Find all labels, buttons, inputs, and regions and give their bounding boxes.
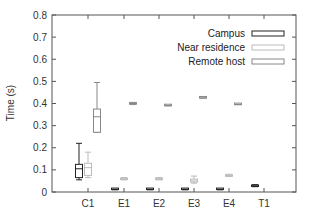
box-remote-host-C1	[94, 82, 101, 132]
y-axis-ticks: 00.10.20.30.40.50.60.70.8	[33, 10, 296, 198]
y-tick-label: 0.7	[33, 32, 47, 43]
box-campus-E3	[182, 188, 189, 190]
y-tick-label: 0.1	[33, 164, 47, 175]
x-tick-label: E2	[153, 198, 166, 209]
legend-label: Campus	[208, 28, 245, 39]
y-tick-label: 0.4	[33, 98, 47, 109]
box-campus-C1	[76, 143, 83, 180]
x-tick-label: E1	[118, 198, 131, 209]
box-near-residence-E3	[191, 176, 198, 183]
y-tick-label: 0	[41, 187, 47, 198]
box-campus-E1	[112, 188, 119, 190]
x-tick-label: E3	[188, 198, 201, 209]
box-remote-host-E3	[200, 96, 207, 98]
legend: CampusNear residenceRemote host	[177, 28, 284, 67]
box-near-residence-E2	[156, 178, 163, 180]
x-tick-label: T1	[258, 198, 270, 209]
y-tick-label: 0.3	[33, 120, 47, 131]
x-tick-label: E4	[223, 198, 236, 209]
y-axis-title: Time (s)	[5, 85, 16, 121]
box-near-residence-C1	[85, 152, 92, 177]
box-campus-E2	[147, 188, 154, 190]
legend-swatch	[252, 45, 284, 50]
box-plot-chart: 00.10.20.30.40.50.60.70.8 C1E1E2E3E4T1 T…	[0, 0, 311, 217]
box-remote-host-E2	[165, 104, 172, 106]
box-campus-T1	[252, 185, 259, 187]
box-remote-host-E1	[130, 102, 137, 104]
box-campus-E4	[217, 188, 224, 190]
y-tick-label: 0.6	[33, 54, 47, 65]
legend-label: Near residence	[177, 42, 245, 53]
box-remote-host-E4	[235, 103, 242, 105]
legend-label: Remote host	[188, 56, 245, 67]
y-tick-label: 0.8	[33, 10, 47, 21]
x-tick-label: C1	[82, 198, 95, 209]
legend-swatch	[252, 31, 284, 36]
y-tick-label: 0.2	[33, 142, 47, 153]
legend-swatch	[252, 59, 284, 64]
box-near-residence-E1	[121, 178, 128, 180]
box-near-residence-E4	[226, 174, 233, 176]
box-series	[76, 82, 259, 189]
y-tick-label: 0.5	[33, 76, 47, 87]
